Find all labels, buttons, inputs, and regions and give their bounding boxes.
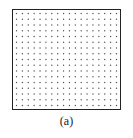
grid-dot: [39, 76, 40, 77]
grid-dot: [51, 59, 52, 60]
grid-dot: [33, 30, 34, 31]
grid-dot: [104, 82, 105, 83]
grid-dot: [75, 36, 76, 37]
grid-dot: [75, 47, 76, 48]
grid-dot: [86, 47, 87, 48]
grid-dot: [57, 30, 58, 31]
grid-dot: [57, 36, 58, 37]
grid-dot: [28, 47, 29, 48]
grid-dot: [63, 93, 64, 94]
grid-dot: [104, 13, 105, 14]
grid-dot: [69, 76, 70, 77]
grid-dot: [104, 42, 105, 43]
grid-dot: [63, 70, 64, 71]
grid-dot: [69, 93, 70, 94]
grid-dot: [51, 76, 52, 77]
grid-dot: [39, 70, 40, 71]
grid-dot: [86, 36, 87, 37]
grid-dot: [104, 99, 105, 100]
grid-dot: [51, 42, 52, 43]
grid-dot: [51, 24, 52, 25]
grid-dot: [63, 47, 64, 48]
grid-dot: [69, 53, 70, 54]
grid-dot: [39, 53, 40, 54]
grid-dot: [16, 42, 17, 43]
grid-dot: [28, 30, 29, 31]
grid-dot: [92, 24, 93, 25]
grid-dot: [69, 42, 70, 43]
grid-dot: [33, 36, 34, 37]
grid-dot: [45, 99, 46, 100]
grid-dot: [92, 42, 93, 43]
grid-dot: [75, 105, 76, 106]
grid-dot: [45, 47, 46, 48]
grid-dot: [28, 105, 29, 106]
grid-dot: [110, 65, 111, 66]
grid-dot: [57, 24, 58, 25]
grid-dot: [63, 65, 64, 66]
grid-dot: [22, 42, 23, 43]
grid-dot: [63, 82, 64, 83]
grid-dot: [92, 99, 93, 100]
dot-grid: [13, 10, 120, 109]
grid-dot: [57, 42, 58, 43]
grid-dot: [81, 105, 82, 106]
grid-dot: [104, 19, 105, 20]
grid-dot: [116, 30, 117, 31]
grid-dot: [63, 42, 64, 43]
grid-dot: [81, 65, 82, 66]
grid-dot: [22, 59, 23, 60]
grid-dot: [69, 30, 70, 31]
grid-dot: [16, 24, 17, 25]
grid-dot: [39, 59, 40, 60]
grid-dot: [16, 13, 17, 14]
grid-dot: [39, 99, 40, 100]
grid-dot: [57, 70, 58, 71]
grid-dot: [86, 76, 87, 77]
grid-dot: [16, 76, 17, 77]
grid-dot: [92, 13, 93, 14]
grid-dot: [33, 59, 34, 60]
grid-dot: [116, 19, 117, 20]
grid-dot: [81, 88, 82, 89]
grid-dot: [92, 47, 93, 48]
grid-dot: [22, 13, 23, 14]
grid-dot: [116, 24, 117, 25]
grid-dot: [92, 36, 93, 37]
grid-dot: [28, 93, 29, 94]
grid-dot: [16, 36, 17, 37]
grid-dot: [57, 88, 58, 89]
grid-dot: [63, 19, 64, 20]
grid-dot: [92, 59, 93, 60]
grid-dot: [16, 70, 17, 71]
grid-dot: [98, 70, 99, 71]
grid-dot: [63, 13, 64, 14]
grid-dot: [39, 47, 40, 48]
grid-dot: [116, 70, 117, 71]
grid-dot: [75, 70, 76, 71]
grid-dot: [51, 47, 52, 48]
grid-dot: [86, 93, 87, 94]
grid-dot: [63, 88, 64, 89]
grid-dot: [110, 99, 111, 100]
grid-dot: [86, 82, 87, 83]
grid-dot: [33, 70, 34, 71]
grid-dot: [51, 70, 52, 71]
grid-dot: [69, 24, 70, 25]
grid-dot: [98, 65, 99, 66]
grid-dot: [45, 30, 46, 31]
grid-dot: [98, 19, 99, 20]
grid-dot: [22, 105, 23, 106]
grid-dot: [110, 82, 111, 83]
grid-dot: [39, 65, 40, 66]
grid-dot: [75, 53, 76, 54]
grid-dot: [63, 30, 64, 31]
grid-dot: [104, 24, 105, 25]
grid-dot: [45, 59, 46, 60]
grid-dot: [81, 76, 82, 77]
grid-dot: [104, 47, 105, 48]
grid-dot: [98, 53, 99, 54]
grid-dot: [33, 24, 34, 25]
grid-dot: [22, 88, 23, 89]
grid-dot: [81, 13, 82, 14]
